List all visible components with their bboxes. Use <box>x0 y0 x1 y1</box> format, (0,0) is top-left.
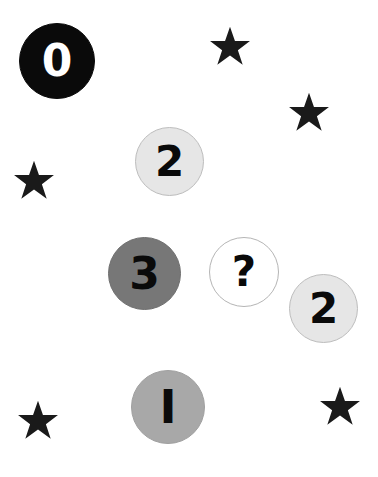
star-icon <box>13 160 55 202</box>
star-icon <box>209 26 251 68</box>
token-label: ? <box>232 251 256 293</box>
numbered-circle-3[interactable]: 3 <box>108 237 181 310</box>
star-icon <box>319 386 361 428</box>
token-label: I <box>159 384 176 430</box>
numbered-circle-2-right[interactable]: 2 <box>289 274 358 343</box>
puzzle-canvas: 023?2I <box>0 0 378 477</box>
star-icon <box>17 400 59 442</box>
numbered-circle-unknown[interactable]: ? <box>209 237 279 307</box>
numbered-circle-2-top[interactable]: 2 <box>135 127 204 196</box>
token-label: 3 <box>129 252 160 296</box>
token-label: 0 <box>42 39 73 83</box>
token-label: 2 <box>309 288 338 330</box>
numbered-circle-1[interactable]: I <box>131 370 205 444</box>
numbered-circle-0[interactable]: 0 <box>19 23 95 99</box>
star-icon <box>288 92 330 134</box>
token-label: 2 <box>155 141 184 183</box>
